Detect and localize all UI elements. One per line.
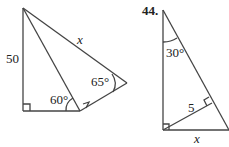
right-angle-mark-left [23,104,30,111]
right-figure [163,10,229,130]
label-65-deg: 65° [91,74,109,89]
left-hypotenuse [23,8,127,83]
geometry-figures: 50 x 60° 65° 44. 30° 5 x [0,0,229,147]
label-x-right: x [193,131,200,146]
angle-arc-65 [112,74,115,92]
label-5: 5 [188,100,195,115]
angle-arc-30 [163,38,177,42]
left-figure [23,8,127,111]
label-x-left: x [76,32,83,47]
label-60-deg: 60° [50,92,68,107]
problem-number: 44. [142,3,158,18]
label-50: 50 [6,51,19,66]
label-30-deg: 30° [166,45,184,60]
right-angle-mark-middle [83,102,89,108]
